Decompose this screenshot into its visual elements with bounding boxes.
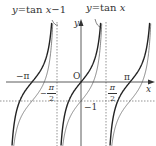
neg-pi-label: −π	[16, 72, 29, 81]
neg-half-pi-label: π 2	[47, 84, 56, 103]
curve-tan	[12, 23, 52, 146]
label-x-var: x	[120, 2, 126, 13]
origin-label: O	[73, 72, 80, 81]
y-axis-label: y	[74, 19, 79, 28]
curve-tan-minus-one	[63, 24, 102, 146]
frac-numerator: π	[108, 84, 117, 92]
label-eq: =tan	[92, 2, 120, 13]
x-axis-label: x	[146, 85, 151, 94]
label-tan: y=tan x	[86, 3, 125, 13]
label-eq: =tan	[18, 4, 46, 15]
neg-half-pi-sign: −	[40, 90, 47, 98]
frac-numerator: π	[47, 84, 56, 92]
frac-denominator: 2	[108, 95, 117, 103]
label-tan-minus-one: y=tan x−1	[12, 5, 66, 15]
pi-label: π	[124, 73, 130, 82]
y-axis-arrow-icon	[79, 19, 84, 26]
frac-denominator: 2	[47, 95, 56, 103]
minus-one-label: −1	[84, 103, 97, 112]
label-minus-one-part: −1	[51, 4, 66, 15]
half-pi-label: π 2	[108, 84, 117, 103]
curve-tan-minus-one	[112, 24, 151, 146]
tangent-diagram: y=tan x−1 y=tan x y x O −π π −1 − π 2 π …	[0, 0, 156, 146]
